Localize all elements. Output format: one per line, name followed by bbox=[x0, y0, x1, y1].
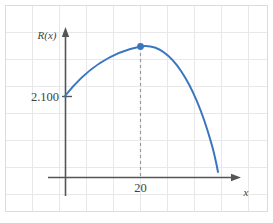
chart-figure: R(x) x 2.100 20 bbox=[0, 0, 273, 223]
parabola-chart: R(x) x 2.100 20 bbox=[0, 0, 273, 223]
y-tick-label-2100: 2.100 bbox=[31, 90, 59, 104]
x-axis-label: x bbox=[243, 186, 249, 198]
y-axis-label: R(x) bbox=[37, 29, 57, 42]
x-tick-label-20: 20 bbox=[134, 181, 147, 195]
maximum-point-marker bbox=[137, 43, 144, 50]
